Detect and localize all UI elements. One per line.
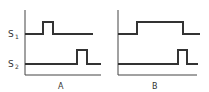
panel-a: A [25,10,101,91]
panel-b: B [118,10,200,91]
signal-label-s1: S 1 [8,29,19,40]
panel-a-label: A [58,82,64,91]
panel-b-label: B [152,82,158,91]
panel-b-s1-waveform [118,22,200,34]
svg-text:2: 2 [15,63,19,70]
panel-a-s1-waveform [25,22,93,34]
panel-b-s2-waveform [118,50,198,64]
signal-label-s2: S 2 [8,59,19,70]
panel-a-s2-waveform [25,50,101,64]
svg-text:1: 1 [15,33,19,40]
svg-text:S: S [8,29,14,39]
timing-diagram: S 1 S 2 A B [0,0,209,92]
svg-text:S: S [8,59,14,69]
